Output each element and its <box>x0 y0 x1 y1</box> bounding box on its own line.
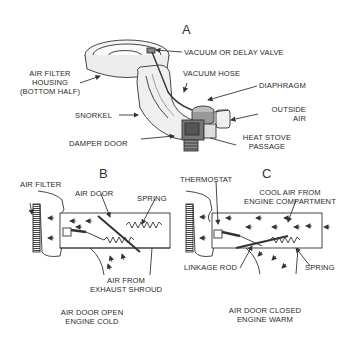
caption-b: AIR DOOR OPEN ENGINE COLD <box>52 308 132 326</box>
label-diaphragm: DIAPHRAGM <box>259 81 306 90</box>
label-vacuum-hose: VACUUM HOSE <box>183 69 240 78</box>
panel-b-artwork <box>30 191 170 275</box>
panel-c-letter: C <box>262 166 271 181</box>
label-vacuum-delay-valve: VACUUM OR DELAY VALVE <box>184 48 284 57</box>
label-air-filter: AIR FILTER <box>20 180 61 189</box>
label-spring-b: SPRING <box>137 194 167 203</box>
label-heat-stove-passage: HEAT STOVE PASSAGE <box>236 133 298 151</box>
label-thermostat: THERMOSTAT <box>180 175 232 184</box>
label-air-filter-housing: AIR FILTER HOUSING (BOTTOM HALF) <box>16 69 84 96</box>
label-damper-door: DAMPER DOOR <box>69 139 127 148</box>
label-outside-air: OUTSIDE AIR <box>266 105 306 123</box>
caption-c: AIR DOOR CLOSED ENGINE WARM <box>220 306 310 324</box>
label-air-from-exhaust: AIR FROM EXHAUST SHROUD <box>82 276 170 294</box>
label-snorkel: SNORKEL <box>75 111 112 120</box>
diagram-artwork <box>0 0 360 338</box>
label-linkage-rod: LINKAGE ROD <box>184 263 237 272</box>
label-air-door: AIR DOOR <box>75 189 113 198</box>
label-spring-c: SPRING <box>305 263 335 272</box>
panel-b-letter: B <box>99 166 108 181</box>
label-cool-air: COOL AIR FROM ENGINE COMPARTMENT <box>236 188 344 206</box>
panel-a-letter: A <box>182 22 191 37</box>
